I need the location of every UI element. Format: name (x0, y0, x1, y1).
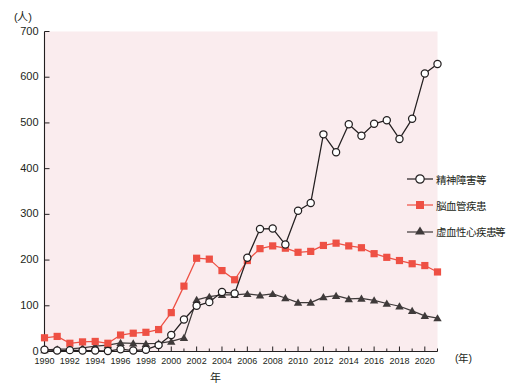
data-point (332, 149, 339, 156)
data-point (168, 309, 175, 316)
data-point (294, 207, 301, 214)
data-point (218, 288, 225, 295)
data-point (256, 245, 263, 252)
legend-item-cerebro: 脳血管疾患 (406, 192, 518, 218)
data-point (130, 347, 137, 354)
data-point (307, 248, 314, 255)
data-point (358, 132, 365, 139)
data-point (130, 330, 137, 337)
data-point (345, 121, 352, 128)
data-point (66, 340, 73, 347)
data-point (117, 346, 124, 353)
data-point (294, 249, 301, 256)
y-axis-unit-label: (人) (14, 8, 32, 24)
data-point (383, 117, 390, 124)
data-point (345, 242, 352, 249)
data-point (434, 268, 441, 275)
data-point (396, 135, 403, 142)
data-point (104, 347, 111, 354)
data-point (206, 256, 213, 263)
filled-square-icon (406, 198, 434, 212)
data-point (256, 225, 263, 232)
data-point (269, 225, 276, 232)
data-point (41, 346, 48, 353)
legend-item-ischemic: 虚血性心疾患等 (406, 218, 518, 244)
data-point (79, 338, 86, 345)
data-point (282, 241, 289, 248)
data-point (92, 347, 99, 354)
data-point (54, 347, 61, 354)
data-point (231, 290, 238, 297)
y-tick-label: 600 (5, 71, 39, 82)
data-point (142, 329, 149, 336)
data-point (206, 299, 213, 306)
x-axis-title: 年 (0, 369, 430, 385)
data-point (66, 347, 73, 354)
data-point (231, 276, 238, 283)
x-axis-unit-label: (年) (455, 350, 472, 365)
data-point (371, 120, 378, 127)
data-point (92, 338, 99, 345)
data-point (193, 255, 200, 262)
y-tick-label: 700 (5, 26, 39, 37)
x-tick-label: 2020 (410, 357, 440, 366)
data-point (371, 250, 378, 257)
data-point (104, 340, 111, 347)
data-point (269, 242, 276, 249)
data-point (54, 333, 61, 340)
data-point (409, 260, 416, 267)
open-circle-icon (406, 172, 434, 186)
data-point (409, 115, 416, 122)
data-point (244, 254, 251, 261)
plot-background (45, 32, 438, 352)
data-point (320, 242, 327, 249)
data-point (396, 257, 403, 264)
chart-legend: 精神障害等 脳血管疾患 虚血性心疾患等 (406, 166, 518, 244)
data-point (142, 346, 149, 353)
data-point (358, 244, 365, 251)
data-point (332, 240, 339, 247)
y-tick-label: 100 (5, 300, 39, 311)
data-point (320, 131, 327, 138)
data-point (180, 283, 187, 290)
y-tick-label: 500 (5, 117, 39, 128)
data-point (383, 254, 390, 261)
legend-label-ischemic: 虚血性心疾患等 (436, 224, 505, 239)
data-point (117, 331, 124, 338)
data-point (307, 199, 314, 206)
legend-label-mental: 精神障害等 (436, 172, 486, 187)
data-point (193, 302, 200, 309)
y-tick-label: 300 (5, 208, 39, 219)
y-tick-label: 0 (5, 346, 39, 357)
data-point (434, 60, 441, 67)
y-tick-label: 400 (5, 163, 39, 174)
legend-label-cerebro: 脳血管疾患 (436, 198, 486, 213)
data-point (180, 316, 187, 323)
data-point (421, 70, 428, 77)
data-point (168, 331, 175, 338)
filled-triangle-icon (406, 224, 434, 238)
data-point (155, 326, 162, 333)
data-point (79, 347, 86, 354)
data-point (421, 262, 428, 269)
line-chart: (人) 0100200300400500600700 1990199219941… (0, 0, 518, 390)
y-tick-label: 200 (5, 254, 39, 265)
data-point (41, 334, 48, 341)
data-point (155, 342, 162, 349)
data-point (218, 267, 225, 274)
legend-item-mental: 精神障害等 (406, 166, 518, 192)
